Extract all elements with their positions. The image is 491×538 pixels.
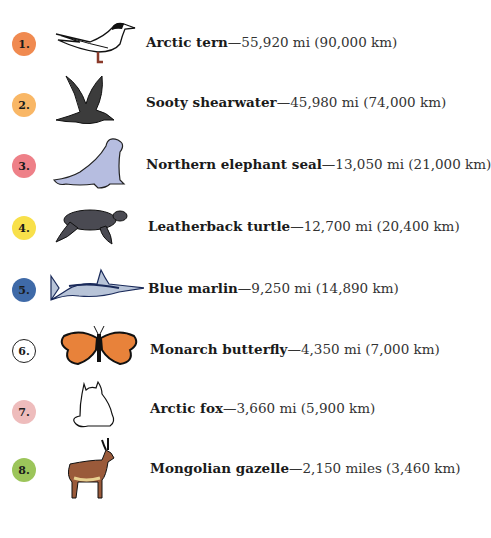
animal-name: Northern elephant seal	[146, 156, 322, 172]
sooty-shearwater-icon	[50, 74, 140, 130]
migration-distance: —55,920 mi (90,000 km)	[228, 34, 397, 50]
leatherback-turtle-icon	[50, 198, 140, 254]
rank-badge: 2.	[12, 93, 36, 117]
list-item: 1. Arctic tern—55,920 mi (90,000 km)	[0, 14, 486, 74]
animal-name: Sooty shearwater	[146, 94, 277, 110]
migration-distance: —4,350 mi (7,000 km)	[287, 341, 439, 357]
rank-badge: 6.	[12, 339, 36, 363]
rank-badge: 8.	[12, 458, 36, 482]
animal-name: Arctic tern	[146, 34, 228, 50]
animal-name: Mongolian gazelle	[150, 460, 289, 476]
animal-name: Leatherback turtle	[148, 218, 290, 234]
rank-badge: 5.	[12, 278, 36, 302]
migration-distance: —12,700 mi (20,400 km)	[290, 218, 459, 234]
list-item: 7. Arctic fox—3,660 mi (5,900 km)	[0, 380, 486, 440]
list-item: 5. Blue marlin—9,250 mi (14,890 km)	[0, 262, 486, 322]
list-item: 6. Monarch butterfly—4,350 mi (7,000 km)	[0, 322, 486, 382]
rank-badge: 7.	[12, 400, 36, 424]
migration-distance: —2,150 miles (3,460 km)	[289, 460, 461, 476]
list-item: 4. Leatherback turtle—12,700 mi (20,400 …	[0, 198, 486, 258]
rank-badge: 1.	[12, 32, 36, 56]
migration-distance: —3,660 mi (5,900 km)	[223, 400, 375, 416]
list-item: 8. Mongolian gazelle—2,150 miles (3,460 …	[0, 436, 486, 506]
arctic-tern-icon	[50, 14, 140, 70]
list-item: 2. Sooty shearwater—45,980 mi (74,000 km…	[0, 74, 486, 134]
animal-name: Monarch butterfly	[150, 341, 287, 357]
list-item: 3. Northern elephant seal—13,050 mi (21,…	[0, 136, 486, 196]
blue-marlin-icon	[44, 262, 144, 318]
monarch-butterfly-icon	[50, 322, 140, 378]
rank-badge: 4.	[12, 216, 36, 240]
elephant-seal-icon	[50, 136, 140, 192]
rank-badge: 3.	[12, 154, 36, 178]
mongolian-gazelle-icon	[50, 436, 140, 506]
migration-distance: —13,050 mi (21,000 km)	[322, 156, 491, 172]
animal-name: Arctic fox	[150, 400, 223, 416]
arctic-fox-icon	[50, 380, 140, 436]
migration-distance: —9,250 mi (14,890 km)	[238, 280, 399, 296]
migration-distance: —45,980 mi (74,000 km)	[277, 94, 446, 110]
animal-name: Blue marlin	[148, 280, 238, 296]
